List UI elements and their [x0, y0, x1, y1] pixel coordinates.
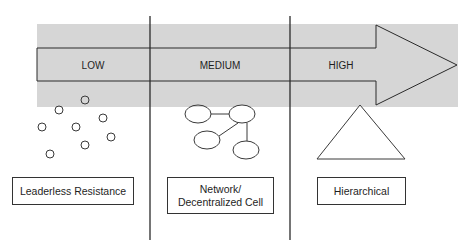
hierarchical-label: Hierarchical — [334, 185, 389, 198]
label-box-hierarchical: Hierarchical — [317, 177, 406, 205]
level-label-medium: MEDIUM — [200, 60, 241, 71]
level-label-low: LOW — [82, 60, 105, 71]
network-nodes-icon — [185, 105, 259, 159]
network-label-line2: Decentralized Cell — [178, 196, 263, 209]
triangle-icon — [317, 105, 405, 159]
label-box-leaderless-resistance: Leaderless Resistance — [12, 177, 134, 205]
level-label-high: HIGH — [329, 60, 354, 71]
leaderless-resistance-label: Leaderless Resistance — [20, 185, 126, 198]
label-box-network-decentralized-cell: Network/ Decentralized Cell — [167, 177, 274, 214]
network-label-line1: Network/ — [200, 183, 241, 196]
